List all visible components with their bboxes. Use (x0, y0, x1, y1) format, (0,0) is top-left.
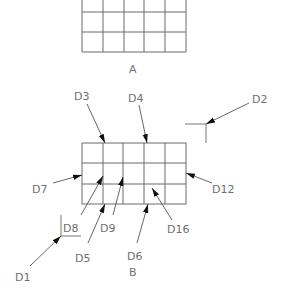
arrow-d8 (81, 176, 103, 215)
callout-d5: D5 (75, 252, 90, 265)
arrow-d3 (87, 104, 105, 143)
grid-a (82, 0, 186, 52)
callout-d7: D7 (32, 183, 47, 196)
corner-symbol-d2 (185, 124, 206, 143)
callout-d9: D9 (100, 222, 115, 235)
arrow-d1 (30, 236, 61, 266)
callout-d1: D1 (15, 271, 30, 284)
arrow-d4 (139, 105, 147, 143)
callout-d4: D4 (128, 92, 143, 105)
arrow-d12 (186, 173, 212, 183)
grid-b-label: B (129, 266, 137, 279)
arrow-d7 (53, 175, 82, 183)
callout-d6: D6 (127, 250, 142, 263)
callout-d16: D16 (167, 223, 189, 236)
grid-b (82, 143, 186, 204)
arrow-d9 (113, 177, 123, 215)
callout-d8: D8 (63, 222, 78, 235)
grid-a-label: A (129, 63, 137, 76)
arrow-d2 (206, 103, 249, 124)
diagram-canvas: A B D1 D2 D3 D4 D5 D6 D7 D8 D9 (0, 0, 283, 296)
arrow-d6 (137, 204, 148, 243)
callout-d2: D2 (252, 93, 267, 106)
callout-d12: D12 (212, 183, 234, 196)
callout-d3: D3 (74, 90, 89, 103)
